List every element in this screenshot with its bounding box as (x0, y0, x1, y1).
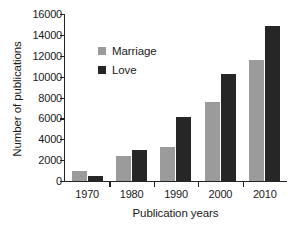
y-tick-mark (60, 56, 64, 57)
y-tick-mark (60, 98, 64, 99)
bar-marriage-1990 (160, 147, 175, 181)
x-tick-label: 2000 (197, 188, 243, 200)
y-tick-mark (60, 181, 64, 182)
bar-love-1970 (88, 176, 103, 181)
y-tick-label: 12000 (22, 50, 62, 61)
y-tick-mark (60, 14, 64, 15)
legend-swatch-icon (98, 66, 106, 74)
x-tick-mark (198, 182, 199, 187)
x-axis-tick-labels: 19701980199020002010 (64, 188, 287, 202)
y-tick-mark (60, 160, 64, 161)
y-tick-label: 14000 (22, 29, 62, 40)
bar-marriage-1980 (116, 156, 131, 181)
plot-area (64, 14, 287, 182)
publications-bar-chart: Number of publications 02000400060008000… (0, 0, 304, 233)
bar-marriage-2000 (205, 102, 220, 181)
legend-item-love: Love (98, 62, 188, 78)
x-tick-label: 2010 (242, 188, 288, 200)
y-tick-label: 6000 (22, 113, 62, 124)
x-tick-mark (109, 182, 110, 187)
legend-label: Love (112, 64, 137, 76)
bar-love-1990 (176, 117, 191, 181)
x-tick-label: 1990 (153, 188, 199, 200)
y-tick-label: 10000 (22, 71, 62, 82)
y-tick-mark (60, 118, 64, 119)
y-tick-label: 4000 (22, 134, 62, 145)
x-tick-mark (243, 182, 244, 187)
y-axis-tick-labels: 0200040006000800010000120001400016000 (22, 14, 62, 182)
x-axis-title: Publication years (64, 207, 287, 220)
bars-layer (65, 14, 287, 181)
bar-group (109, 14, 153, 181)
bar-love-2000 (221, 74, 236, 182)
y-tick-mark (60, 139, 64, 140)
legend-swatch-icon (98, 47, 106, 55)
legend-label: Marriage (112, 45, 157, 57)
bar-love-1980 (132, 150, 147, 181)
y-tick-label: 16000 (22, 9, 62, 20)
y-tick-mark (60, 35, 64, 36)
y-tick-label: 8000 (22, 92, 62, 103)
x-tick-label: 1980 (109, 188, 155, 200)
bar-group (243, 14, 287, 181)
x-tick-mark (154, 182, 155, 187)
bar-marriage-1970 (72, 171, 87, 181)
bar-marriage-2010 (249, 60, 264, 181)
y-tick-label: 0 (22, 176, 62, 187)
bar-group (65, 14, 109, 181)
y-tick-mark (60, 77, 64, 78)
chart-legend: MarriageLove (98, 43, 188, 81)
x-tick-label: 1970 (64, 188, 110, 200)
bar-group (198, 14, 242, 181)
legend-item-marriage: Marriage (98, 43, 188, 59)
bar-love-2010 (265, 26, 280, 181)
bar-group (154, 14, 198, 181)
y-tick-label: 2000 (22, 155, 62, 166)
